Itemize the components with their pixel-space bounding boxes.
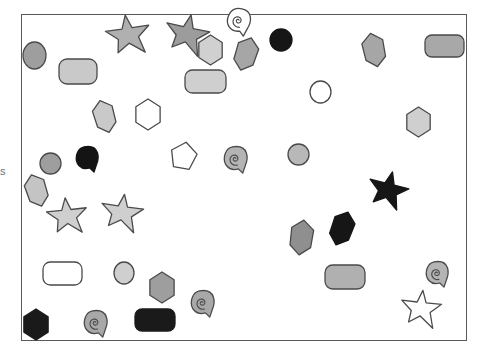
rounded-rect-left-pale [56, 56, 100, 87]
diamond-lower-gray [283, 215, 319, 260]
circle-top-left-gray [20, 39, 49, 72]
hexagon-bottom-black [19, 306, 53, 343]
star-lower-right-white [395, 283, 448, 335]
star-lower-mid-pale [94, 186, 150, 240]
star-lower-left-pale [41, 191, 94, 242]
spiral-mid-black [72, 143, 103, 175]
circle-lower-pale [111, 259, 137, 287]
circle-top-black [267, 26, 295, 54]
hexagon-right-pale [402, 104, 435, 140]
left-edge-clipped-label: s [0, 163, 12, 179]
spiral-mid-gray [220, 143, 252, 176]
rounded-rect-bottom-black [132, 306, 178, 334]
spiral-bottom-gray [80, 307, 112, 340]
circle-mid-right-gray [285, 141, 312, 168]
hexagon-left-white [131, 96, 165, 133]
hexagon-lower-gray [145, 269, 179, 306]
star-top-light-gray [99, 7, 157, 64]
hexagon-top-pale [194, 32, 227, 68]
rounded-rect-lower-white [40, 259, 85, 288]
rounded-rect-center-pale [182, 67, 229, 96]
spiral-lower-mid-gray [187, 287, 219, 320]
circle-center-white [307, 78, 334, 106]
shape-scatter-canvas: s [0, 0, 481, 355]
rounded-rect-lower-pale [322, 262, 368, 292]
rounded-rect-top-right-gray [422, 32, 467, 60]
